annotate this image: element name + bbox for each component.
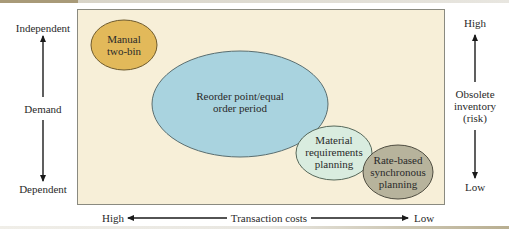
demand-axis-title: Demand — [5, 103, 81, 115]
reorder-line-1: Reorder point/equal — [180, 90, 300, 102]
cost-left-label: High — [100, 212, 126, 224]
mrp-label: Material requirements planning — [299, 134, 369, 170]
risk-title-line-2: inventory — [445, 100, 505, 112]
mrp-line-2: requirements — [299, 146, 369, 158]
risk-title-line-3: (risk) — [445, 112, 505, 124]
risk-axis-title: Obsolete inventory (risk) — [445, 88, 505, 124]
demand-top-label: Independent — [5, 22, 81, 34]
reorder-line-2: order period — [180, 102, 300, 114]
manual-line-1: Manual — [94, 33, 154, 45]
manual-two-bin-label: Manual two-bin — [94, 33, 154, 57]
demand-bottom-label: Dependent — [5, 183, 81, 195]
rate-line-2: synchronous — [364, 166, 432, 178]
cost-axis-title: Transaction costs — [227, 212, 311, 224]
mrp-line-1: Material — [299, 134, 369, 146]
risk-title-line-1: Obsolete — [445, 88, 505, 100]
cost-right-label: Low — [411, 212, 437, 224]
reorder-point-label: Reorder point/equal order period — [180, 90, 300, 114]
risk-top-label: High — [445, 17, 505, 29]
manual-line-2: two-bin — [94, 45, 154, 57]
rate-based-label: Rate-based synchronous planning — [364, 154, 432, 190]
rate-line-3: planning — [364, 178, 432, 190]
mrp-line-3: planning — [299, 158, 369, 170]
rate-line-1: Rate-based — [364, 154, 432, 166]
risk-bottom-label: Low — [445, 181, 505, 193]
